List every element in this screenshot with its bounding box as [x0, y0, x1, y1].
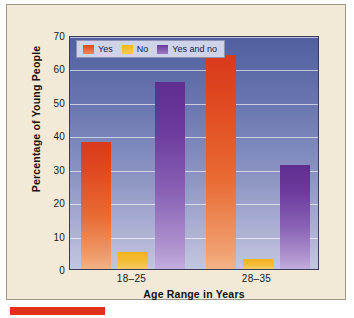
- gridline: [70, 70, 318, 71]
- legend-swatch-icon: [83, 45, 94, 54]
- x-axis-title: Age Range in Years: [69, 288, 319, 300]
- chart-screenshot: Percentage of Young People 0102030405060…: [0, 0, 354, 318]
- x-tick-label: 28–35: [212, 273, 302, 284]
- y-tick-label: 30: [25, 164, 65, 175]
- legend-swatch-icon: [157, 45, 168, 54]
- y-tick-label: 20: [25, 198, 65, 209]
- chart-card: Percentage of Young People 0102030405060…: [6, 4, 346, 300]
- bar-no-28-35: [243, 259, 273, 269]
- y-tick-label: 40: [25, 131, 65, 142]
- legend-label: Yes and no: [172, 44, 217, 54]
- y-tick-label: 10: [25, 231, 65, 242]
- legend-item-no: No: [122, 44, 149, 54]
- bar-no-18-25: [118, 252, 148, 269]
- y-tick-label: 60: [25, 64, 65, 75]
- legend-label: No: [137, 44, 149, 54]
- y-axis-ticks: 010203040506070: [21, 36, 65, 270]
- legend-item-yes: Yes: [83, 44, 113, 54]
- y-tick-label: 0: [25, 265, 65, 276]
- bar-yes-and-no-18-25: [155, 82, 185, 269]
- bar-yes-28-35: [206, 55, 236, 269]
- y-tick-label: 50: [25, 97, 65, 108]
- bar-yes-18-25: [81, 142, 111, 269]
- chart-legend: YesNoYes and no: [76, 40, 225, 58]
- bar-yes-and-no-28-35: [280, 165, 310, 269]
- legend-swatch-icon: [122, 45, 133, 54]
- gridline: [70, 37, 318, 38]
- legend-item-yes-and-no: Yes and no: [157, 44, 217, 54]
- x-tick-label: 18–25: [87, 273, 177, 284]
- legend-label: Yes: [98, 44, 113, 54]
- y-tick-label: 70: [25, 31, 65, 42]
- plot-area: YesNoYes and no: [69, 36, 319, 270]
- bottom-accent-bar: [10, 307, 105, 315]
- gridline: [70, 104, 318, 105]
- gridline: [70, 137, 318, 138]
